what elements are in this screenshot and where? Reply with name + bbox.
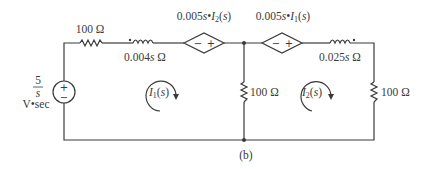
resistor-middle: 100 Ω <box>241 82 279 102</box>
polarity-dot-1 <box>129 39 131 41</box>
voltage-source: + − 5 s V•sec <box>22 74 75 110</box>
inductor-1-label: 0.004s Ω <box>124 51 166 63</box>
mesh-2-label: I2(s) <box>301 86 322 100</box>
inductor-coil-icon <box>133 40 153 43</box>
polarity-dot-2 <box>353 39 355 41</box>
source-minus-sign: − <box>60 92 68 103</box>
arrowhead-icon <box>173 94 179 100</box>
resistor-middle-label: 100 Ω <box>250 86 279 98</box>
wire-bottom <box>64 102 374 140</box>
figure-caption: (b) <box>239 149 253 162</box>
mesh-current-1: I1(s) <box>146 81 179 111</box>
diamond-source-icon <box>184 33 224 53</box>
dep1-plus: + <box>207 38 215 49</box>
resistor-right: 100 Ω <box>371 82 410 102</box>
resistor-zigzag-icon <box>371 82 377 102</box>
dep2-minus: − <box>272 38 280 49</box>
dependent-source-2-label: 0.005s•I1(s) <box>256 10 311 24</box>
inductor-coil-icon <box>330 40 350 43</box>
dependent-source-1: − + 0.005s•I2(s) <box>177 10 232 53</box>
dependent-source-1-label: 0.005s•I2(s) <box>177 10 232 24</box>
diamond-source-icon <box>262 33 302 53</box>
resistor-zigzag-icon <box>241 82 247 102</box>
source-numerator: 5 <box>35 74 41 86</box>
mesh-1-label: I1(s) <box>148 86 169 100</box>
resistor-right-label: 100 Ω <box>381 86 410 98</box>
dep2-plus: + <box>285 38 293 49</box>
wire-left-top <box>64 43 80 81</box>
circuit-diagram: + − 5 s V•sec 100 Ω 0.004s Ω − + 0.005s•… <box>0 0 432 169</box>
dependent-source-2: − + 0.005s•I1(s) <box>256 10 311 53</box>
mesh-current-2: I2(s) <box>301 82 334 111</box>
dep1-minus: − <box>194 38 202 49</box>
resistor-zigzag-icon <box>80 40 102 46</box>
source-units: V•sec <box>22 98 49 110</box>
junction-dot-top <box>242 41 246 45</box>
arrowhead-icon <box>328 94 334 100</box>
resistor-top-left-label: 100 Ω <box>76 23 105 35</box>
junction-dot-bottom <box>242 138 246 142</box>
inductor-2-label: 0.025s Ω <box>319 51 361 63</box>
resistor-top-left: 100 Ω <box>76 23 105 46</box>
